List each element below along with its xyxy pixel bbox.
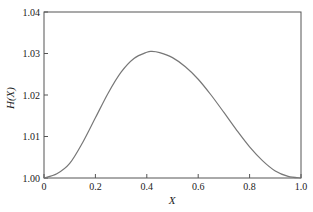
x-tick-label: 0.2 <box>89 181 102 192</box>
y-tick-label: 1.04 <box>23 7 41 18</box>
data-line-hx <box>44 51 301 178</box>
y-tick-label: 1.02 <box>23 90 41 101</box>
x-tick-label: 0.6 <box>192 181 205 192</box>
x-axis-label: X <box>168 194 177 206</box>
y-axis-label: H(X) <box>4 87 17 110</box>
x-axis-ticks: 00.20.40.60.81.0 <box>42 174 308 192</box>
line-chart: 1.001.011.021.031.04 00.20.40.60.81.0 X … <box>0 0 313 212</box>
x-tick-label: 1.0 <box>295 181 308 192</box>
x-tick-label: 0.8 <box>243 181 256 192</box>
x-tick-label: 0.4 <box>141 181 154 192</box>
x-tick-label: 0 <box>42 181 47 192</box>
y-tick-label: 1.03 <box>23 48 41 59</box>
y-tick-label: 1.01 <box>23 131 41 142</box>
y-tick-label: 1.00 <box>23 173 41 184</box>
plot-frame <box>44 12 301 178</box>
